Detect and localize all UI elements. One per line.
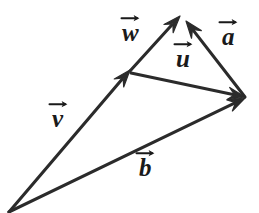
vector-label-a: a: [222, 24, 235, 49]
vector-label-glyph-w: w: [122, 20, 139, 45]
vector-label-u: u: [176, 46, 190, 71]
vector-label-v: v: [52, 106, 63, 131]
vector-shaft-v: [9, 79, 122, 212]
vector-label-glyph-a: a: [222, 24, 235, 49]
vector-label-glyph-b: b: [139, 155, 152, 180]
vector-shaft-u: [131, 73, 233, 94]
vector-label-glyph-v: v: [52, 106, 63, 131]
vector-label-w: w: [122, 20, 139, 45]
vector-diagram: vwaub: [0, 0, 259, 213]
vector-lines-group: [9, 25, 245, 212]
vector-label-b: b: [139, 155, 152, 180]
vector-shaft-b: [9, 103, 234, 212]
vector-label-glyph-u: u: [176, 46, 190, 71]
